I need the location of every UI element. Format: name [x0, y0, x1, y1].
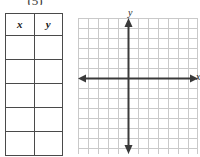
- grid-lines: [78, 18, 198, 154]
- table-row: [6, 84, 63, 108]
- xy-value-table: x y: [5, 13, 63, 156]
- cell-x[interactable]: [6, 84, 35, 108]
- problem-number: (5): [0, 0, 70, 5]
- table-row: [6, 108, 63, 132]
- coordinate-plane: y x: [78, 18, 198, 154]
- table-row: [6, 36, 63, 60]
- x-axis-label: x: [196, 72, 200, 82]
- x-axis-left-arrowhead: [78, 75, 86, 83]
- coordinate-grid-svg: [78, 18, 198, 154]
- cell-x[interactable]: [6, 132, 35, 156]
- cell-y[interactable]: [34, 132, 63, 156]
- cell-x[interactable]: [6, 36, 35, 60]
- y-axis-up-arrowhead: [125, 18, 133, 27]
- table-header-row: x y: [6, 14, 63, 36]
- y-axis-down-arrowhead: [125, 145, 133, 154]
- table-row: [6, 132, 63, 156]
- table-header: x y: [6, 14, 63, 36]
- y-axis-label: y: [128, 8, 132, 18]
- cell-y[interactable]: [34, 36, 63, 60]
- cell-y[interactable]: [34, 108, 63, 132]
- table-body: [6, 36, 63, 156]
- column-header-x: x: [6, 14, 35, 36]
- column-header-y: y: [34, 14, 63, 36]
- cell-x[interactable]: [6, 60, 35, 84]
- xy-table: x y: [5, 13, 63, 150]
- cell-y[interactable]: [34, 60, 63, 84]
- table-row: [6, 60, 63, 84]
- cell-x[interactable]: [6, 108, 35, 132]
- cell-y[interactable]: [34, 84, 63, 108]
